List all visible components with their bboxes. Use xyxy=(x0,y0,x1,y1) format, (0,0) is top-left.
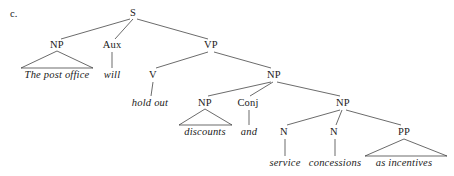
node-label-np3: NP xyxy=(198,98,212,109)
triangles-group xyxy=(21,51,447,156)
triangle-np3-over-t4 xyxy=(179,109,232,125)
branch-s-to-vp xyxy=(137,19,208,39)
branch-np4-to-n1 xyxy=(287,110,340,125)
node-label-aux: Aux xyxy=(103,40,122,51)
triangle-np1-over-t1 xyxy=(21,51,93,68)
node-label-n2: N xyxy=(330,127,338,138)
terminal-label-t5: and xyxy=(241,127,257,138)
node-label-v: V xyxy=(149,70,157,81)
node-label-np1: NP xyxy=(50,40,64,51)
branch-np2-to-np4 xyxy=(277,82,340,96)
terminal-label-t7: concessions xyxy=(309,158,361,169)
branch-s-to-aux xyxy=(115,19,133,39)
syntax-tree-figure: c. SNPAuxVPThe post officewillVNPhold ou… xyxy=(0,0,454,176)
terminal-label-t1: The post office xyxy=(25,70,90,81)
terminal-label-t6: service xyxy=(269,158,300,169)
branch-v-to-t3 xyxy=(151,82,153,96)
terminal-label-t4: discounts xyxy=(184,127,225,138)
node-label-np4: NP xyxy=(336,98,350,109)
triangle-pp-over-t8 xyxy=(365,139,447,156)
node-label-pp: PP xyxy=(398,127,410,138)
tree-branch-lines xyxy=(0,0,454,176)
terminal-label-t2: will xyxy=(104,70,121,81)
branch-np4-to-n2 xyxy=(336,110,342,125)
branch-vp-to-v xyxy=(156,52,208,68)
node-label-s: S xyxy=(130,8,136,19)
branch-vp-to-np2 xyxy=(214,52,271,68)
terminal-label-t8: as incentives xyxy=(376,158,433,169)
node-label-np2: NP xyxy=(267,70,281,81)
branch-s-to-np1 xyxy=(61,19,130,39)
branch-np4-to-pp xyxy=(346,110,401,125)
node-label-vp: VP xyxy=(204,40,218,51)
terminal-label-t3: hold out xyxy=(132,98,168,109)
node-label-n1: N xyxy=(280,127,288,138)
node-label-conj: Conj xyxy=(237,98,258,109)
